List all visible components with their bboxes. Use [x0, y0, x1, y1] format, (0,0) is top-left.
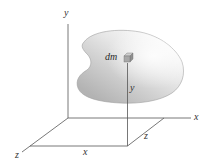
rigid-body-diagram: y x z dm y x z: [0, 0, 209, 168]
mass-element-label: dm: [105, 52, 117, 62]
z-axis-line: [22, 118, 68, 152]
distance-x-label: x: [83, 147, 87, 157]
y-axis-label: y: [64, 8, 68, 18]
height-y-label: y: [130, 83, 134, 93]
diagram-canvas: [0, 0, 209, 168]
distance-z-label: z: [144, 131, 148, 141]
z-axis-label: z: [15, 150, 19, 160]
x-axis-label: x: [194, 112, 198, 122]
